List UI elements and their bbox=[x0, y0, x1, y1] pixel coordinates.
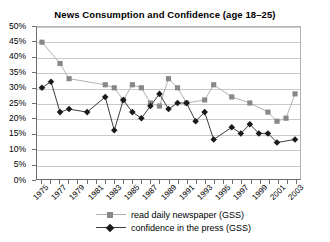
legend-key-confidence bbox=[96, 222, 126, 233]
y-axis-label: 5% bbox=[0, 160, 26, 168]
x-axis-tick bbox=[141, 180, 142, 184]
data-point bbox=[210, 136, 217, 143]
x-axis-tick bbox=[232, 180, 233, 184]
x-axis-tick bbox=[214, 180, 215, 184]
data-point bbox=[265, 110, 270, 115]
data-point bbox=[165, 106, 172, 113]
data-point bbox=[112, 85, 117, 90]
x-axis-tick bbox=[269, 180, 270, 184]
x-axis-label: 2003 bbox=[286, 183, 305, 202]
series-confidence bbox=[39, 78, 299, 145]
data-point bbox=[157, 103, 162, 108]
x-axis-tick bbox=[187, 180, 188, 184]
y-axis-label: 15% bbox=[0, 129, 26, 137]
x-axis-tick bbox=[96, 180, 97, 184]
data-point bbox=[66, 106, 73, 113]
data-point bbox=[174, 100, 181, 107]
y-axis-label: 20% bbox=[0, 114, 26, 122]
data-point bbox=[66, 76, 71, 81]
data-point bbox=[211, 82, 216, 87]
x-axis-tick bbox=[105, 180, 106, 184]
x-axis-label: 1987 bbox=[141, 183, 160, 202]
x-axis-tick bbox=[196, 180, 197, 184]
data-point bbox=[292, 136, 299, 143]
data-point bbox=[166, 76, 171, 81]
data-point bbox=[228, 124, 235, 131]
y-axis-label: 30% bbox=[0, 83, 26, 91]
x-axis-label: 1985 bbox=[123, 183, 142, 202]
x-axis-tick bbox=[159, 180, 160, 184]
x-axis-tick bbox=[178, 180, 179, 184]
y-axis-label: 25% bbox=[0, 99, 26, 107]
data-point bbox=[39, 85, 46, 92]
chart-title: News Consumption and Confidence (age 18–… bbox=[0, 9, 330, 20]
x-axis-label: 1997 bbox=[232, 183, 251, 202]
x-axis-tick bbox=[251, 180, 252, 184]
legend-item-newspaper[interactable]: read daily newspaper (GSS) bbox=[0, 208, 330, 221]
data-point bbox=[39, 40, 44, 45]
x-axis-label: 1977 bbox=[50, 183, 69, 202]
data-series-layer bbox=[37, 27, 300, 179]
x-axis-tick bbox=[87, 180, 88, 184]
x-axis-label: 1975 bbox=[31, 183, 50, 202]
x-axis-tick bbox=[123, 180, 124, 184]
y-axis-label: 35% bbox=[0, 68, 26, 76]
data-point bbox=[57, 109, 64, 116]
x-axis-tick bbox=[50, 180, 51, 184]
y-axis-label: 10% bbox=[0, 145, 26, 153]
plot-area bbox=[36, 26, 301, 180]
y-axis-label: 40% bbox=[0, 52, 26, 60]
x-axis-label: 1991 bbox=[177, 183, 196, 202]
data-point bbox=[57, 61, 62, 66]
y-axis-tick bbox=[32, 180, 36, 181]
y-axis-label: 0% bbox=[0, 176, 26, 184]
data-point bbox=[274, 119, 279, 124]
data-point bbox=[247, 100, 252, 105]
data-point bbox=[111, 127, 118, 134]
data-point bbox=[292, 91, 297, 96]
x-axis-tick bbox=[169, 180, 170, 184]
square-marker-icon bbox=[107, 212, 113, 218]
data-point bbox=[175, 85, 180, 90]
legend-label-confidence: confidence in the press (GSS) bbox=[131, 223, 251, 233]
x-axis-tick bbox=[287, 180, 288, 184]
data-point bbox=[283, 116, 288, 121]
x-axis-tick bbox=[260, 180, 261, 184]
data-point bbox=[202, 97, 207, 102]
legend-label-newspaper: read daily newspaper (GSS) bbox=[131, 210, 244, 220]
data-point bbox=[229, 94, 234, 99]
legend-key-newspaper bbox=[96, 209, 126, 220]
x-axis-label: 2001 bbox=[268, 183, 287, 202]
diamond-marker-icon bbox=[106, 223, 114, 231]
data-point bbox=[130, 82, 135, 87]
y-axis-label: 45% bbox=[0, 37, 26, 45]
x-axis-label: 1999 bbox=[250, 183, 269, 202]
data-point bbox=[103, 82, 108, 87]
data-point bbox=[139, 85, 144, 90]
data-point bbox=[48, 78, 55, 85]
legend-item-confidence[interactable]: confidence in the press (GSS) bbox=[0, 221, 330, 234]
y-axis-label: 50% bbox=[0, 22, 26, 30]
chart-legend: read daily newspaper (GSS) confidence in… bbox=[0, 208, 330, 234]
x-axis-label: 1993 bbox=[195, 183, 214, 202]
x-axis-label: 1981 bbox=[86, 183, 105, 202]
x-axis-label: 1989 bbox=[159, 183, 178, 202]
x-axis-label: 1983 bbox=[104, 183, 123, 202]
x-axis-label: 1995 bbox=[214, 183, 233, 202]
x-axis-tick bbox=[68, 180, 69, 184]
x-axis-label: 1979 bbox=[68, 183, 87, 202]
chart-container: News Consumption and Confidence (age 18–… bbox=[0, 0, 330, 242]
